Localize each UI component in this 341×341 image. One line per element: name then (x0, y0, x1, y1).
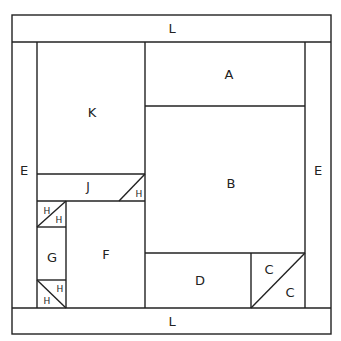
label-a: A (225, 67, 234, 82)
label-k: K (88, 105, 97, 120)
label-j: J (85, 180, 90, 194)
label-b: B (227, 176, 236, 191)
label-e-left: E (20, 163, 28, 178)
label-d: D (195, 273, 205, 288)
label-g: G (47, 250, 57, 265)
label-c1: C (264, 262, 273, 277)
label-e-right: E (314, 163, 322, 178)
label-c2: C (285, 285, 294, 300)
quilt-diagram: L L E E A B K J H H H G H H F D C C (0, 0, 341, 341)
label-f: F (102, 247, 109, 262)
c-diagonal (251, 253, 305, 308)
label-l-top: L (168, 21, 176, 36)
label-h2a: H (57, 284, 64, 294)
label-h2b: H (44, 296, 51, 306)
label-h1b: H (56, 215, 63, 225)
label-h-j: H (136, 189, 143, 199)
label-h1a: H (44, 206, 51, 216)
label-l-bottom: L (168, 314, 176, 329)
